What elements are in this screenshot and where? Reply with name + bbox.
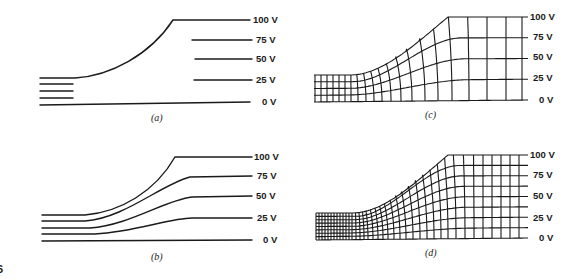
label-0v: 0 V — [539, 232, 554, 243]
flux-line — [448, 17, 452, 101]
caption-b: (b) — [151, 251, 163, 263]
flux-line — [378, 68, 382, 101]
equipotential-75v — [42, 176, 252, 221]
conductor-0v — [40, 102, 250, 105]
label-50v: 50 V — [533, 51, 553, 62]
label-0v: 0 V — [539, 94, 554, 105]
conductor-0v — [314, 100, 528, 102]
flux-line — [356, 213, 357, 240]
flux-line — [406, 49, 412, 101]
flux-line — [408, 186, 413, 239]
label-50v: 50 V — [256, 53, 276, 64]
label-25v: 25 V — [256, 74, 276, 85]
caption-a: (a) — [151, 112, 163, 124]
flux-line — [415, 180, 420, 239]
flux-line — [430, 170, 434, 239]
figure-number: 6 — [0, 263, 3, 275]
label-25v: 25 V — [257, 212, 277, 223]
conductor-100v — [40, 20, 250, 78]
equipotential-50v — [42, 196, 252, 228]
label-75v: 75 V — [533, 169, 553, 180]
conductor-0v — [316, 238, 528, 240]
flux-line — [445, 158, 448, 239]
field-map-figure: 100 V 75 V 50 V 25 V 0 V (a) 100 V 75 V … — [0, 0, 578, 279]
flux-line — [453, 155, 456, 239]
conductor-0v — [42, 240, 252, 241]
panel-d — [316, 155, 528, 240]
caption-d: (d) — [425, 247, 437, 259]
flux-line — [433, 29, 438, 101]
equipotential-line — [316, 165, 528, 216]
label-100v: 100 V — [254, 151, 279, 162]
equipotential-line — [316, 228, 528, 237]
label-0v: 0 V — [262, 96, 277, 107]
conductor-100v — [42, 157, 252, 215]
flux-line — [419, 39, 425, 102]
panel-c — [314, 17, 528, 102]
caption-c: (c) — [425, 109, 437, 121]
label-75v: 75 V — [256, 34, 276, 45]
label-50v: 50 V — [533, 190, 553, 201]
panel-a: 100 V 75 V 50 V 25 V 0 V (a) — [40, 14, 278, 124]
label-0v: 0 V — [263, 234, 278, 245]
label-75v: 75 V — [257, 170, 277, 181]
conductor-100v — [316, 155, 528, 213]
panel-c-labels: 100 V 75 V 50 V 25 V 0 V (c) — [425, 11, 555, 121]
equipotential-line — [316, 197, 528, 227]
label-100v: 100 V — [253, 14, 278, 25]
flux-line — [401, 192, 406, 240]
flux-line — [422, 175, 427, 239]
flux-line — [474, 155, 475, 239]
label-25v: 25 V — [533, 212, 553, 223]
label-50v: 50 V — [256, 190, 276, 201]
equipotential-line — [314, 59, 528, 89]
label-75v: 75 V — [533, 31, 553, 42]
flux-line — [371, 71, 374, 101]
panel-b: 100 V 75 V 50 V 25 V 0 V (b) — [42, 151, 279, 263]
label-100v: 100 V — [530, 11, 555, 22]
label-100v: 100 V — [530, 149, 555, 160]
label-25v: 25 V — [533, 72, 553, 83]
